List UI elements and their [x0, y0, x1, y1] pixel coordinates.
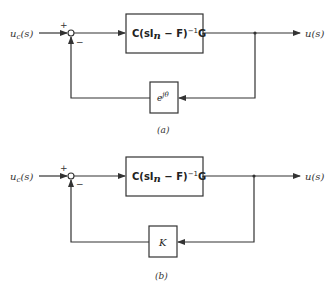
- output-label-b: u(s): [305, 171, 324, 182]
- diagram-a: uc(s) + − C(sIn − F)−1G u(s) ejθ (a): [10, 14, 324, 135]
- summing-junction-b: [68, 173, 74, 179]
- plus-sign-b: +: [60, 163, 68, 173]
- minus-sign-b: −: [76, 179, 84, 189]
- feedback-path-b: [178, 176, 254, 242]
- forward-block-label-b: C(sIn − F)−1G: [132, 170, 206, 184]
- feedback-block-label-a: ejθ: [157, 91, 169, 103]
- input-label-a: uc(s): [10, 28, 33, 41]
- diagram-b: uc(s) + − C(sIn − F)−1G u(s) K (b): [10, 157, 324, 281]
- forward-block-label-a: C(sIn − F)−1G: [132, 27, 206, 41]
- output-label-a: u(s): [305, 28, 324, 39]
- caption-a: (a): [157, 125, 170, 135]
- caption-b: (b): [155, 271, 168, 281]
- feedback-return-b: [71, 180, 149, 242]
- input-label-b: uc(s): [10, 171, 33, 184]
- block-diagram-figure: uc(s) + − C(sIn − F)−1G u(s) ejθ (a) uc(…: [0, 0, 335, 291]
- plus-sign-a: +: [60, 20, 68, 30]
- minus-sign-a: −: [76, 37, 84, 47]
- feedback-path-a: [179, 33, 255, 98]
- summing-junction-a: [68, 30, 74, 36]
- feedback-block-label-b: K: [158, 237, 167, 248]
